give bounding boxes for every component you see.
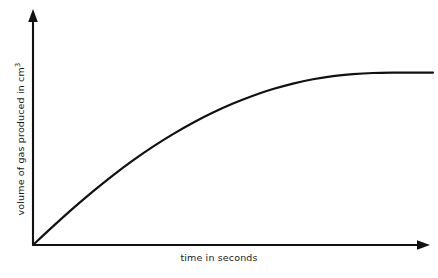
y-axis-label-text: volume of gas produced in cm (15, 67, 26, 215)
y-axis-arrowhead (28, 9, 38, 22)
chart-figure: time in seconds volume of gas produced i… (0, 0, 438, 278)
gas-volume-curve (33, 73, 433, 245)
line-chart-plot (0, 0, 438, 278)
x-axis-arrowhead (417, 240, 430, 250)
y-axis-label-superscript: 3 (14, 63, 22, 68)
y-axis-label: volume of gas produced in cm3 (14, 0, 28, 278)
x-axis-label: time in seconds (0, 252, 438, 263)
